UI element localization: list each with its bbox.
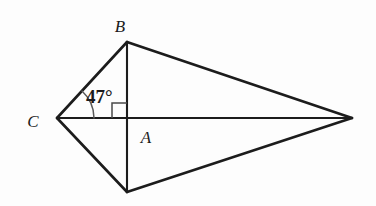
vertex-label-a: A [140, 128, 152, 147]
figure-background [0, 0, 376, 206]
vertex-label-b: B [115, 17, 126, 36]
angle-measure-label: 47° [86, 86, 113, 107]
geometry-canvas: B C A 47° [0, 0, 376, 206]
vertex-label-c: C [27, 112, 39, 131]
geometry-figure: B C A 47° [0, 0, 376, 206]
